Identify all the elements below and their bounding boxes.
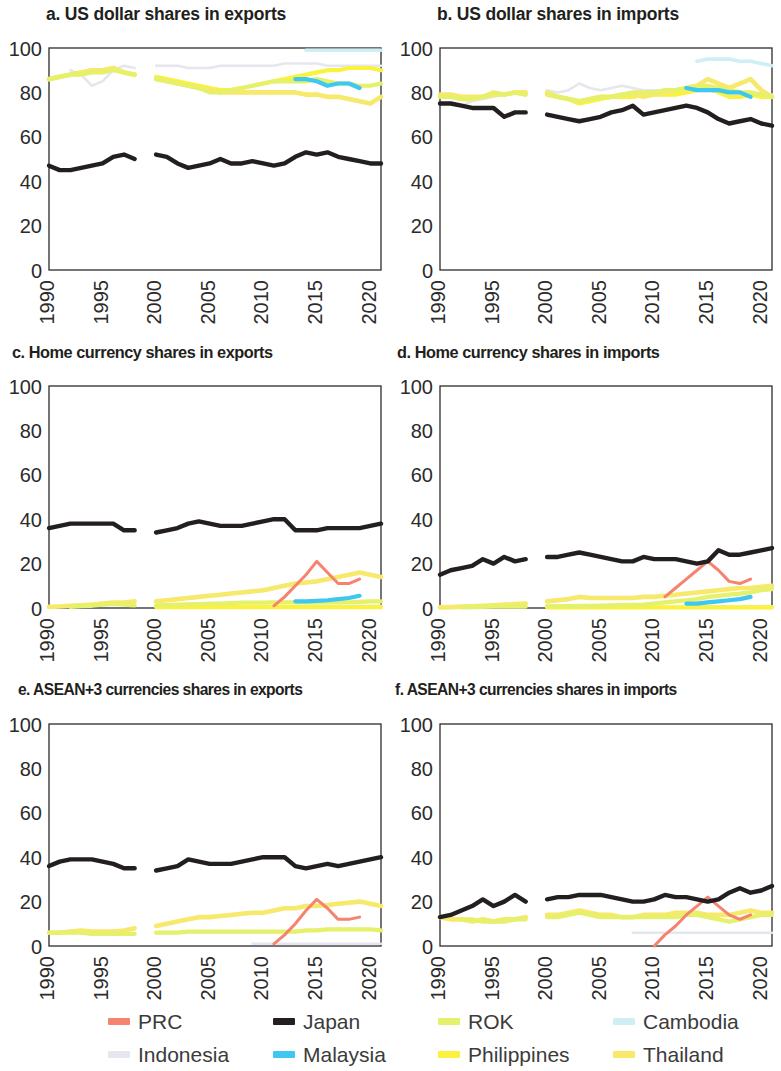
y-tick-label: 60 [411,802,433,824]
x-tick-label: 2005 [197,280,219,325]
panel-b-plot: 0204060801001990199520002005201020152020 [391,30,781,340]
x-tick-label: 1990 [36,618,58,663]
y-tick-label: 80 [411,82,433,104]
y-tick-label: 20 [411,215,433,237]
y-tick-label: 40 [411,171,433,193]
y-tick-label: 100 [9,38,42,60]
x-tick-label: 2015 [304,956,326,1001]
x-tick-label: 2010 [250,280,272,325]
x-tick-label: 2020 [358,618,380,663]
legend-item-prc[interactable]: PRC [108,1011,273,1032]
y-tick-label: 20 [20,891,42,913]
x-tick-label: 1995 [481,618,503,663]
y-tick-label: 80 [411,758,433,780]
panel-b-title: b. US dollar shares in imports [437,6,679,24]
y-tick-label: 100 [9,376,42,398]
x-tick-label: 1990 [427,956,449,1001]
y-tick-label: 100 [400,376,433,398]
x-tick-label: 1990 [427,280,449,325]
x-tick-label: 1995 [481,956,503,1001]
x-tick-label: 1990 [427,618,449,663]
x-tick-label: 2020 [358,956,380,1001]
figure-root: a. US dollar shares in exports 020406080… [0,0,781,1071]
x-tick-label: 2010 [641,956,663,1001]
series-line-rok [461,606,525,607]
panel-d-plot: 0204060801001990199520002005201020152020 [391,368,781,668]
legend-label: Malaysia [303,1044,386,1065]
y-tick-label: 0 [422,598,433,620]
legend-item-rok[interactable]: ROK [438,1011,613,1032]
panel-b-svg: 0204060801001990199520002005201020152020 [391,30,781,340]
panel-d-title: d. Home currency shares in imports [397,344,659,360]
y-tick-label: 0 [31,598,42,620]
panel-c-plot: 0204060801001990199520002005201020152020 [0,368,390,668]
x-tick-label: 2010 [641,618,663,663]
x-tick-label: 2005 [588,618,610,663]
legend-item-indonesia[interactable]: Indonesia [108,1044,273,1065]
legend-item-philippines[interactable]: Philippines [438,1044,613,1065]
legend-swatch-icon [273,1018,295,1025]
y-tick-label: 60 [20,126,42,148]
panel-e-plot: 0204060801001990199520002005201020152020 [0,706,390,1006]
legend-swatch-icon [108,1018,130,1025]
panel-a-svg: 0204060801001990199520002005201020152020 [0,30,390,340]
x-tick-label: 1990 [36,280,58,325]
x-tick-label: 2005 [197,618,219,663]
legend-swatch-icon [438,1051,460,1058]
legend-swatch-icon [273,1051,295,1058]
legend-grid: PRCJapanROKCambodiaIndonesiaMalaysiaPhil… [108,1005,773,1071]
x-tick-label: 1995 [481,280,503,325]
panel-f-title: f. ASEAN+3 currencies shares in imports [395,682,677,698]
x-tick-label: 2010 [641,280,663,325]
x-tick-label: 1995 [90,956,112,1001]
legend-swatch-icon [613,1051,635,1058]
y-tick-label: 0 [31,260,42,282]
y-tick-label: 40 [411,509,433,531]
x-tick-label: 2005 [588,956,610,1001]
y-tick-label: 0 [31,936,42,958]
x-tick-label: 2000 [143,618,165,663]
panel-f-plot: 0204060801001990199520002005201020152020 [391,706,781,1006]
legend-swatch-icon [108,1051,130,1058]
legend-item-thailand[interactable]: Thailand [613,1044,773,1065]
y-tick-label: 60 [20,464,42,486]
panel-d-svg: 0204060801001990199520002005201020152020 [391,368,781,668]
x-tick-label: 2015 [304,280,326,325]
x-tick-label: 2015 [695,280,717,325]
x-tick-label: 2000 [143,956,165,1001]
x-tick-label: 1990 [36,956,58,1001]
y-tick-label: 80 [411,420,433,442]
x-tick-label: 2000 [534,618,556,663]
x-tick-label: 2010 [250,618,272,663]
x-tick-label: 1995 [90,618,112,663]
panel-a-plot: 0204060801001990199520002005201020152020 [0,30,390,340]
x-tick-label: 2015 [304,618,326,663]
legend-item-malaysia[interactable]: Malaysia [273,1044,438,1065]
panel-e-title: e. ASEAN+3 currencies shares in exports [18,682,302,698]
x-tick-label: 2020 [749,280,771,325]
y-tick-label: 80 [20,758,42,780]
legend-item-japan[interactable]: Japan [273,1011,438,1032]
y-tick-label: 0 [422,936,433,958]
y-tick-label: 0 [422,260,433,282]
y-tick-label: 20 [20,215,42,237]
panel-f-svg: 0204060801001990199520002005201020152020 [391,706,781,1006]
legend-item-cambodia[interactable]: Cambodia [613,1011,773,1032]
legend-swatch-icon [613,1018,635,1025]
y-tick-label: 80 [20,82,42,104]
series-line-rok [70,604,134,607]
y-tick-label: 80 [20,420,42,442]
y-tick-label: 40 [20,171,42,193]
legend-label: Cambodia [643,1011,739,1032]
x-tick-label: 2020 [749,956,771,1001]
x-tick-label: 2000 [534,956,556,1001]
y-tick-label: 60 [411,126,433,148]
panel-c-svg: 0204060801001990199520002005201020152020 [0,368,390,668]
y-tick-label: 100 [400,714,433,736]
x-tick-label: 2005 [588,280,610,325]
legend-label: PRC [138,1011,182,1032]
y-tick-label: 100 [9,714,42,736]
panel-c-title: c. Home currency shares in exports [12,344,273,360]
panel-a-title: a. US dollar shares in exports [46,6,286,24]
x-tick-label: 2015 [695,956,717,1001]
